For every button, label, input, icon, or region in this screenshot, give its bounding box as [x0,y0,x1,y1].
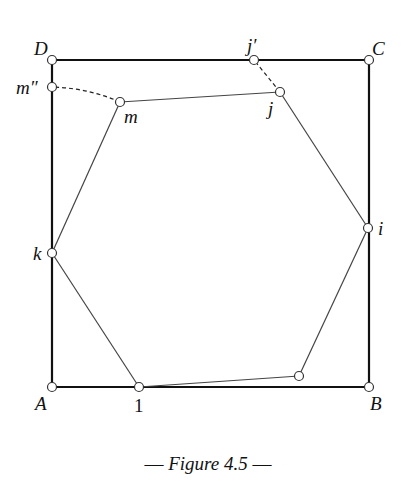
figure-caption: — Figure 4.5 — [143,453,272,474]
vertex-1 [135,383,144,392]
label-j: j [265,98,273,119]
vertex-i [364,224,373,233]
label-B: B [370,393,382,414]
figure-diagram: D C A B m″ m j′ j k i 1 — Figure 4.5 — [0,0,416,489]
vertex-A [48,383,57,392]
vertex-m-double-prime [48,83,57,92]
hex-edge-m-k [52,102,120,253]
label-i: i [378,218,383,239]
hex-edge-1-bottomright [139,376,299,387]
vertex-bottom-right [295,372,304,381]
caption-title: Figure 4.5 [167,453,248,474]
caption-dash-left: — [143,453,168,474]
label-m: m [124,106,138,127]
hex-edge-j-m [120,92,280,102]
label-D: D [33,38,48,59]
label-m-double-prime: m″ [16,77,39,98]
vertex-j-prime [250,56,259,65]
caption-dash-right: — [248,453,273,474]
vertex-B [365,383,374,392]
label-A: A [33,393,47,414]
dashed-guides [52,60,280,102]
square [52,60,369,387]
label-C: C [372,38,385,59]
vertices [48,56,374,392]
label-k: k [33,243,42,264]
vertex-j [276,88,285,97]
arc-m-to-m-double-prime [52,87,120,102]
label-1: 1 [134,395,144,416]
hex-edge-k-1 [52,253,139,387]
dash-j-to-j-prime [254,60,280,92]
hex-edge-bottomright-i [299,228,368,376]
vertex-k [48,249,57,258]
hex-edge-i-j [280,92,368,228]
label-j-prime: j′ [244,35,257,56]
vertex-D [48,56,57,65]
hexagon [52,92,368,387]
